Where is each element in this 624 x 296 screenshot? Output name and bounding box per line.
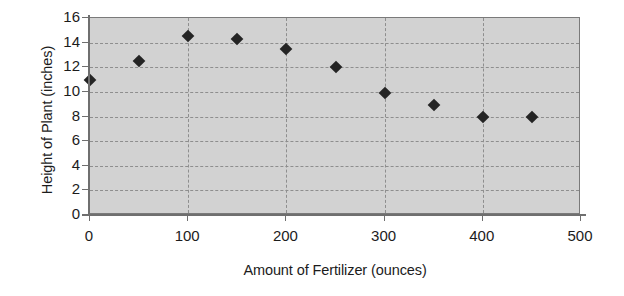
y-axis-tick-mark — [82, 165, 89, 166]
data-point — [476, 110, 489, 123]
y-axis-tick-label: 2 — [52, 181, 80, 196]
y-axis-tick-mark — [82, 42, 89, 43]
y-axis-tick-label: 4 — [52, 157, 80, 172]
x-axis-tick-label: 500 — [550, 228, 610, 243]
y-axis-tick-label: 12 — [52, 58, 80, 73]
y-axis-tick-label: 8 — [52, 108, 80, 123]
y-axis-tick-label: 0 — [52, 206, 80, 221]
y-axis-tick-mark — [82, 17, 89, 18]
data-point — [378, 87, 391, 100]
x-axis-tick-mark — [187, 214, 188, 221]
gridline-horizontal — [90, 43, 579, 44]
gridline-horizontal — [90, 92, 579, 93]
x-axis-tick-mark — [580, 214, 581, 221]
x-axis-tick-mark — [285, 214, 286, 221]
y-axis-tick-mark — [82, 116, 89, 117]
y-axis-tick-mark — [82, 66, 89, 67]
data-point — [427, 99, 440, 112]
gridline-horizontal — [90, 141, 579, 142]
y-axis-tick-mark — [82, 91, 89, 92]
data-point — [329, 61, 342, 74]
data-point — [84, 73, 97, 86]
x-axis-tick-label: 200 — [255, 228, 315, 243]
y-axis-tick-mark — [82, 140, 89, 141]
data-point — [280, 42, 293, 55]
y-axis-tick-labels: 0246810121416 — [48, 0, 80, 250]
y-axis-tick-label: 16 — [52, 9, 80, 24]
x-axis-tick-mark — [482, 214, 483, 221]
data-point — [182, 30, 195, 43]
y-axis-tick-label: 10 — [52, 83, 80, 98]
x-axis-tick-label: 0 — [59, 228, 119, 243]
x-axis-line — [82, 214, 586, 216]
x-axis-title: Amount of Fertilizer (ounces) — [89, 262, 581, 278]
x-axis-tick-mark — [89, 214, 90, 221]
x-axis-tick-mark — [384, 214, 385, 221]
x-axis-tick-label: 100 — [157, 228, 217, 243]
plot-area — [89, 17, 580, 214]
y-axis-tick-label: 14 — [52, 34, 80, 49]
y-axis-tick-label: 6 — [52, 132, 80, 147]
x-axis-tick-label: 400 — [452, 228, 512, 243]
y-axis-tick-mark — [82, 189, 89, 190]
data-point — [133, 55, 146, 68]
gridline-horizontal — [90, 117, 579, 118]
gridline-vertical — [188, 18, 189, 213]
gridline-horizontal — [90, 166, 579, 167]
x-axis-tick-label: 300 — [354, 228, 414, 243]
gridline-horizontal — [90, 190, 579, 191]
scatter-chart: Height of Plant (inches) 0246810121416 A… — [0, 0, 624, 296]
gridline-vertical — [385, 18, 386, 213]
y-axis-tick-mark — [82, 214, 89, 215]
data-point — [526, 110, 539, 123]
